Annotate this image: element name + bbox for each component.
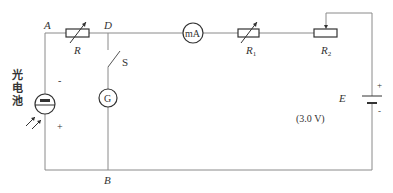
photocell-label-3: 池: [12, 94, 23, 108]
label-R1: R1: [245, 44, 257, 58]
photocell-label-1: 光: [11, 68, 23, 82]
label-R2: R2: [320, 44, 332, 58]
battery-minus: -: [378, 106, 381, 116]
battery-plus: +: [377, 80, 382, 90]
label-mA: mA: [185, 28, 201, 39]
label-E-value: (3.0 V): [296, 113, 325, 125]
circuit-diagram: A D B R mA R1 R2 S G E (3.0 V) + - - + 光…: [0, 0, 393, 193]
switch-S: [108, 51, 120, 67]
potentiometer-R2: [314, 13, 337, 37]
photocell-minus: -: [58, 75, 61, 86]
photocell: [26, 94, 55, 129]
node-label-A: A: [43, 19, 51, 31]
resistor-R1: [238, 22, 259, 43]
photocell-plus: +: [57, 121, 63, 132]
battery-E: [362, 96, 382, 103]
light-arrows-icon: [26, 117, 41, 129]
label-S: S: [122, 56, 128, 68]
node-label-D: D: [103, 19, 112, 31]
label-E: E: [338, 92, 346, 104]
label-G: G: [104, 93, 111, 104]
slider-arrow-icon: [324, 25, 328, 29]
resistor-R: [66, 22, 89, 43]
node-label-B: B: [104, 174, 111, 186]
photocell-label-2: 电: [12, 81, 23, 95]
label-R: R: [73, 44, 81, 56]
